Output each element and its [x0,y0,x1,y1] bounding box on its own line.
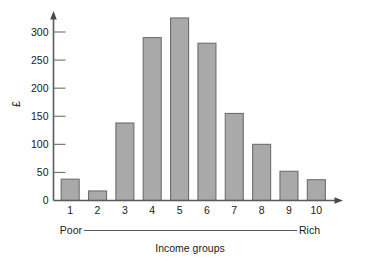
bar [61,179,79,200]
bar [280,171,298,200]
y-tick-label: 300 [31,26,49,38]
x-tick-label: 9 [286,204,292,216]
y-tick-label: 100 [31,138,49,150]
x-tick-label: 4 [149,204,155,216]
x-tick-label-group: 12345678910 [67,204,322,216]
x-tick-label: 7 [231,204,237,216]
y-tick-label: 50 [37,166,49,178]
x-tick-label: 10 [310,204,322,216]
range-label-poor: Poor [60,224,83,236]
x-axis-title: Income groups [155,242,224,254]
bar [198,43,216,200]
x-tick-label: 5 [177,204,183,216]
bar [171,18,189,201]
y-axis-title: £ [10,101,22,107]
bar [143,38,161,201]
x-axis: 12345678910 [54,197,344,215]
y-tick-group [54,32,66,172]
x-tick-label: 8 [259,204,265,216]
bar-series [61,18,325,201]
x-tick-label: 2 [95,204,101,216]
x-tick-label: 6 [204,204,210,216]
y-axis-arrow-icon [50,11,57,20]
y-tick-label: 150 [31,110,49,122]
income-range-indicator: Poor Rich Income groups [60,224,320,254]
range-label-rich: Rich [299,224,320,236]
x-tick-label: 3 [122,204,128,216]
x-tick-label: 1 [67,204,73,216]
y-tick-label-group: 050100150200250300 [31,26,49,207]
chart-canvas: 050100150200250300 £ 12345678910 Poor Ri… [0,0,366,261]
x-axis-arrow-icon [335,197,344,204]
bar [116,123,134,201]
bar-chart-figure: 050100150200250300 £ 12345678910 Poor Ri… [0,0,366,261]
bar [89,191,107,201]
bar [307,180,325,201]
bar [225,113,243,200]
bar [253,144,271,200]
y-tick-label: 200 [31,82,49,94]
y-axis: 050100150200250300 £ [10,11,66,206]
y-tick-label: 250 [31,54,49,66]
y-tick-label: 0 [43,194,49,206]
